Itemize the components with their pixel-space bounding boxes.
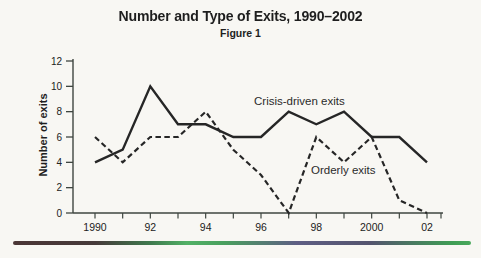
- y-tick-label: 2: [56, 182, 62, 193]
- series-label-orderly-exits: Orderly exits: [311, 164, 376, 176]
- bottom-rule: [13, 241, 471, 245]
- series-label-crisis-driven-exits: Crisis-driven exits: [254, 95, 345, 107]
- line-chart-svg: 024681012199092949698200002: [0, 48, 481, 243]
- x-tick-label: 1990: [83, 221, 107, 233]
- y-tick-label: 0: [56, 208, 62, 219]
- chart-figure-label: Figure 1: [0, 27, 481, 39]
- x-tick-label: 02: [421, 221, 433, 233]
- y-tick-label: 6: [56, 132, 62, 143]
- x-tick-label: 92: [144, 221, 156, 233]
- chart-title: Number and Type of Exits, 1990–2002: [7, 8, 474, 24]
- y-tick-label: 8: [56, 106, 62, 117]
- x-tick-label: 2000: [360, 221, 384, 233]
- series-line-orderly-exits: [95, 112, 427, 213]
- y-tick-label: 4: [56, 157, 62, 168]
- x-tick-label: 98: [310, 221, 322, 233]
- y-tick-label: 10: [51, 81, 63, 92]
- x-tick-label: 96: [255, 221, 267, 233]
- y-tick-label: 12: [51, 56, 63, 67]
- x-tick-label: 94: [200, 221, 212, 233]
